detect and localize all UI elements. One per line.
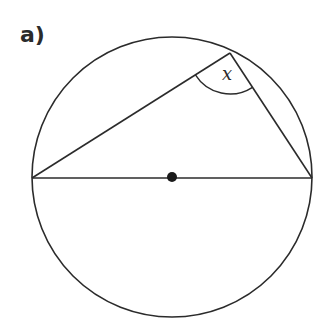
chord-left <box>32 53 230 178</box>
center-dot <box>167 172 177 182</box>
circle-diagram: x <box>0 0 329 336</box>
angle-label: x <box>222 63 232 84</box>
chord-right <box>230 53 312 178</box>
diagram-canvas: a) x <box>0 0 329 336</box>
